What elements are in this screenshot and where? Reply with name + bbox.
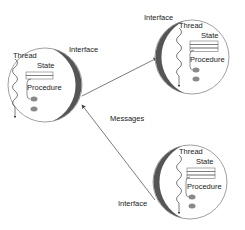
procedure-blob xyxy=(189,195,196,200)
message-arrow-left-to-top xyxy=(82,58,157,96)
messages-label: Messages xyxy=(110,114,144,123)
interface-label: Interface xyxy=(69,45,98,54)
thread-label: Thread xyxy=(179,147,203,156)
object-left: Thread State Procedure xyxy=(8,48,82,122)
procedure-blob xyxy=(193,77,200,82)
procedure-label: Procedure xyxy=(27,83,62,92)
state-label: State xyxy=(201,31,219,40)
procedure-blob xyxy=(31,107,38,112)
procedure-label: Procedure xyxy=(190,55,225,64)
procedure-blob xyxy=(193,68,200,73)
object-top-right: Thread State Procedure xyxy=(155,20,229,94)
object-messaging-diagram: Messages Thread State Procedure Interfac… xyxy=(0,0,245,230)
procedure-blob xyxy=(31,97,38,102)
interface-label: Interface xyxy=(118,199,147,208)
procedure-blob xyxy=(189,204,196,209)
interface-label: Interface xyxy=(144,13,173,22)
procedure-label: Procedure xyxy=(187,182,222,191)
thread-label: Thread xyxy=(13,51,37,60)
state-label: State xyxy=(37,61,55,70)
thread-label: Thread xyxy=(179,21,203,30)
object-bottom-right: Thread State Procedure xyxy=(153,145,227,219)
state-label: State xyxy=(196,157,214,166)
